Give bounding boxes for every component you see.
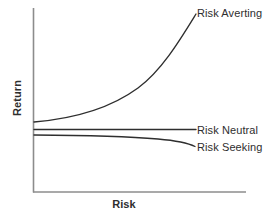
curve-risk-averting xyxy=(34,14,196,122)
chart-plot-area xyxy=(0,0,280,220)
x-axis-title: Risk xyxy=(0,198,248,210)
series-label-risk-neutral: Risk Neutral xyxy=(197,124,258,136)
series-label-risk-seeking: Risk Seeking xyxy=(197,141,262,153)
y-axis-title: Return xyxy=(11,68,23,128)
curve-risk-seeking xyxy=(34,135,195,147)
risk-return-chart: Risk Averting Risk Neutral Risk Seeking … xyxy=(0,0,280,220)
series-label-risk-averting: Risk Averting xyxy=(197,7,262,19)
